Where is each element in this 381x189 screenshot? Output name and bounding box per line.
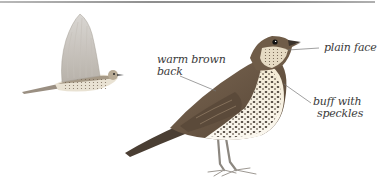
flying-bird-figure <box>22 14 124 94</box>
leader-line-breast <box>284 84 311 103</box>
leader-line-face <box>288 48 319 50</box>
annotation-warm-brown-back: warm brown back <box>157 54 226 78</box>
annotation-back-line2: back <box>157 66 226 78</box>
annotation-buff-with-speckles: buff with speckles <box>313 96 363 120</box>
annotation-face-line1: plain face <box>324 42 377 54</box>
annotation-plain-face: plain face <box>324 42 377 54</box>
annotation-breast-line2: speckles <box>313 108 363 120</box>
thrush-illustration: warm brown back plain face buff with spe… <box>0 0 381 189</box>
leader-line-back <box>180 76 216 91</box>
